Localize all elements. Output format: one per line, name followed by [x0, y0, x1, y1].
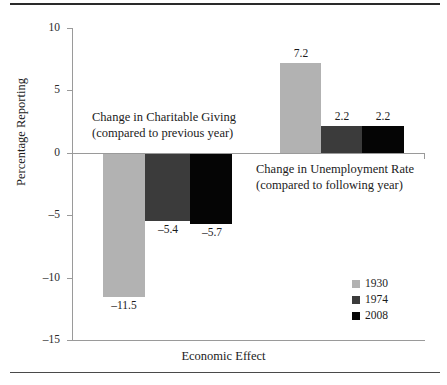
y-tick-label-10: 10	[49, 22, 61, 34]
y-tick-label-minus5: –5	[49, 209, 61, 221]
bar-label-unemployment-2008: 2.2	[357, 111, 409, 123]
chart-legend: 1930 1974 2008	[352, 277, 388, 325]
bar-unemployment-2008[interactable]	[362, 126, 404, 153]
annotation-giving-line2: (compared to previous year)	[92, 125, 236, 141]
bar-giving-1974[interactable]	[145, 153, 190, 221]
annotation-unemployment-rate: Change in Unemployment Rate (compared to…	[256, 161, 414, 194]
legend-item-1930[interactable]: 1930	[352, 277, 388, 291]
y-tick-label-minus15: –15	[43, 334, 60, 346]
y-tick-5: 5	[67, 90, 73, 91]
y-tick-label-0: 0	[54, 147, 60, 159]
legend-label-2008: 2008	[365, 310, 388, 322]
y-axis-title: Percentage Reporting	[14, 78, 29, 186]
y-tick-label-5: 5	[54, 84, 60, 96]
x-axis-title: Economic Effect	[0, 349, 447, 364]
zero-baseline	[72, 153, 425, 154]
legend-swatch-2008-icon	[352, 312, 360, 320]
chart-figure: Percentage Reporting 10 5 0 –5 –10 –15	[0, 0, 447, 385]
legend-label-1930: 1930	[365, 278, 388, 290]
bar-giving-1930[interactable]	[103, 153, 145, 297]
bar-label-giving-2008: –5.7	[186, 227, 238, 239]
y-tick-minus10: –10	[67, 278, 73, 279]
bottom-rule	[10, 372, 440, 373]
annotation-unemployment-line1: Change in Unemployment Rate	[256, 161, 414, 177]
legend-swatch-1930-icon	[352, 280, 360, 288]
x-axis-line	[72, 340, 425, 341]
legend-swatch-1974-icon	[352, 296, 360, 304]
annotation-unemployment-line2: (compared to following year)	[256, 177, 414, 193]
y-tick-10: 10	[67, 28, 73, 29]
legend-label-1974: 1974	[365, 294, 388, 306]
y-axis-line	[72, 28, 73, 340]
bar-unemployment-1930[interactable]	[280, 63, 321, 153]
bar-label-unemployment-1930: 7.2	[275, 48, 327, 60]
legend-item-1974[interactable]: 1974	[352, 293, 388, 307]
top-rule	[10, 3, 440, 5]
bar-giving-2008[interactable]	[190, 153, 232, 224]
bar-unemployment-1974[interactable]	[321, 126, 362, 153]
legend-item-2008[interactable]: 2008	[352, 309, 388, 323]
y-tick-minus5: –5	[67, 215, 73, 216]
y-tick-label-minus10: –10	[43, 272, 60, 284]
annotation-charitable-giving: Change in Charitable Giving (compared to…	[92, 109, 236, 142]
zero-baseline-end-tick	[424, 153, 425, 159]
annotation-giving-line1: Change in Charitable Giving	[92, 109, 236, 125]
bar-label-giving-1930: –11.5	[98, 300, 150, 312]
